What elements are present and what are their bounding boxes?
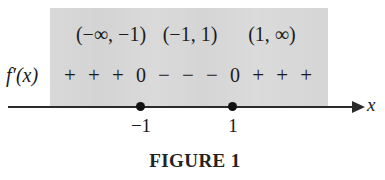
sign-cell-1: + — [64, 60, 76, 90]
axis-arrow-icon — [352, 101, 365, 113]
axis-label-x: x — [367, 93, 375, 117]
critical-point-dot-pos1 — [228, 102, 237, 111]
sign-cell-2: + — [88, 60, 100, 90]
critical-point-dot-neg1 — [136, 102, 145, 111]
sign-cell-5: − — [182, 60, 194, 90]
sign-cell-8: + — [276, 60, 288, 90]
tick-label-pos1: 1 — [208, 114, 258, 138]
derivative-row-label: f′(x) — [6, 60, 50, 90]
interval-label-pos1-to-infinity: (1, ∞) — [232, 18, 312, 50]
number-line-axis — [8, 106, 358, 108]
sign-cell-6: − — [206, 60, 218, 90]
sign-cell-zero-at-pos1: 0 — [230, 60, 240, 90]
derivative-sign-row: + + + 0 − − − 0 + + + — [64, 60, 312, 90]
sign-cell-9: + — [300, 60, 312, 90]
sign-cell-7: + — [252, 60, 264, 90]
figure-caption: FIGURE 1 — [110, 148, 280, 174]
tick-label-neg1: −1 — [116, 114, 166, 138]
sign-cell-3: + — [112, 60, 124, 90]
sign-cell-4: − — [158, 60, 170, 90]
figure-sign-chart: (−∞, −1) (−1, 1) (1, ∞) f′(x) + + + 0 − … — [0, 0, 385, 180]
sign-cell-zero-at-neg1: 0 — [136, 60, 146, 90]
interval-label-neg1-to-pos1: (−1, 1) — [148, 18, 232, 50]
